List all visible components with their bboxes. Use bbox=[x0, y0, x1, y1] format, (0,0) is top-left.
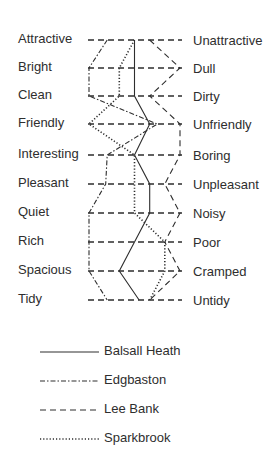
left-label: Clean bbox=[18, 88, 52, 102]
right-label: Dirty bbox=[193, 90, 220, 104]
right-label: Unattractive bbox=[193, 34, 262, 48]
legend-label: Sparkbrook bbox=[104, 431, 170, 445]
profile-lee-bank bbox=[150, 40, 180, 300]
left-label: Interesting bbox=[18, 147, 79, 161]
right-label: Dull bbox=[193, 62, 215, 76]
right-label: Boring bbox=[193, 149, 231, 163]
right-label: Cramped bbox=[193, 265, 246, 279]
left-label: Rich bbox=[18, 234, 44, 248]
legend-label: Lee Bank bbox=[104, 402, 159, 416]
left-label: Attractive bbox=[18, 32, 72, 46]
left-label: Spacious bbox=[18, 263, 71, 277]
left-label: Quiet bbox=[18, 205, 49, 219]
profile-balsall-heath bbox=[119, 40, 149, 300]
left-label: Tidy bbox=[18, 292, 42, 306]
legend-swatches bbox=[40, 352, 99, 439]
profile-edgbaston bbox=[89, 40, 157, 300]
right-label: Noisy bbox=[193, 207, 226, 221]
legend-label: Edgbaston bbox=[104, 373, 166, 387]
right-label: Untidy bbox=[193, 294, 230, 308]
profile-sparkbrook bbox=[89, 40, 165, 300]
profile-lines bbox=[89, 40, 180, 300]
right-label: Unfriendly bbox=[193, 118, 252, 132]
right-label: Poor bbox=[193, 236, 220, 250]
left-label: Friendly bbox=[18, 116, 64, 130]
legend-label: Balsall Heath bbox=[104, 344, 181, 358]
right-label: Unpleasant bbox=[193, 178, 259, 192]
left-label: Bright bbox=[18, 60, 52, 74]
left-label: Pleasant bbox=[18, 176, 69, 190]
